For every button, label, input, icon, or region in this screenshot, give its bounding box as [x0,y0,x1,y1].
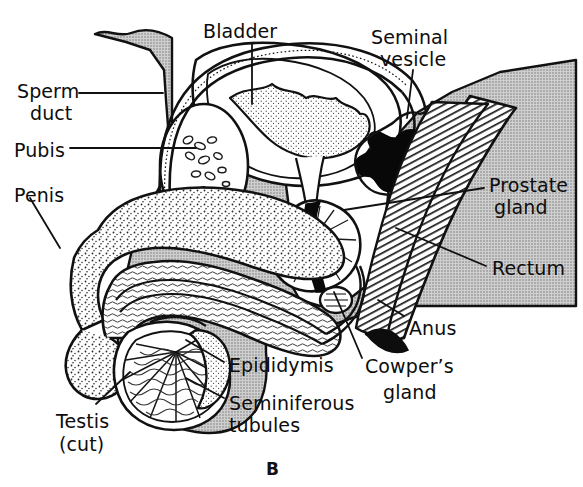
anatomy-figure: Bladder Seminal vesicle Sperm duct Pubis… [0,0,583,487]
label-testis-line1: Testis [56,410,109,432]
label-sperm-duct-line1: Sperm [17,80,79,102]
label-testis-line2: (cut) [59,433,104,455]
label-seminiferous-tubules-line2: tubules [229,414,300,436]
figure-letter: B [266,459,279,479]
label-epididymis: Epididymis [229,355,334,376]
cowpers-gland [320,287,352,313]
label-pubis: Pubis [14,140,65,161]
label-bladder: Bladder [203,21,277,42]
scrotum-and-testis [114,317,230,430]
label-seminal-vesicle-line2: vesicle [380,48,446,70]
label-penis: Penis [14,185,64,206]
label-seminiferous-tubules-line1: Seminiferous [229,392,354,414]
label-anus: Anus [409,318,456,339]
label-prostate-gland-line2: gland [494,196,548,218]
label-cowpers-gland-line2: gland [383,381,437,403]
label-sperm-duct-line2: duct [30,102,72,124]
label-cowpers-gland-line1: Cowper’s [365,355,454,377]
label-rectum: Rectum [492,258,565,279]
label-seminal-vesicle-line1: Seminal [371,26,448,48]
label-prostate-gland-line1: Prostate [489,174,568,196]
